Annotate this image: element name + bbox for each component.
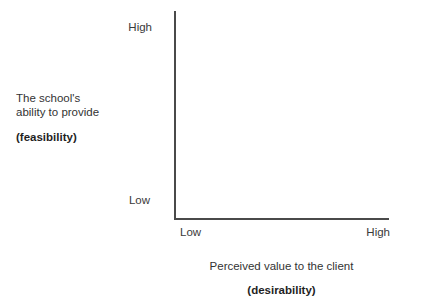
- y-axis-title-emphasis: (feasibility): [16, 130, 166, 144]
- y-axis-title: The school's ability to provide (feasibi…: [16, 91, 166, 144]
- plot-area: [176, 11, 389, 218]
- x-axis-title: Perceived value to the client (desirabil…: [174, 259, 389, 297]
- y-axis-title-line-2: ability to provide: [16, 105, 166, 119]
- x-axis-title-emphasis: (desirability): [174, 283, 389, 297]
- x-axis-tick-high: High: [300, 226, 390, 239]
- x-axis-tick-low: Low: [180, 226, 201, 239]
- y-axis-title-line-1: The school's: [16, 91, 166, 105]
- x-axis-title-line-1: Perceived value to the client: [174, 259, 389, 273]
- prioritization-matrix-figure: High Low Low High The school's ability t…: [0, 0, 431, 305]
- y-axis-tick-low: Low: [0, 194, 150, 207]
- x-axis-line: [174, 218, 389, 220]
- y-axis-tick-high: High: [0, 21, 152, 34]
